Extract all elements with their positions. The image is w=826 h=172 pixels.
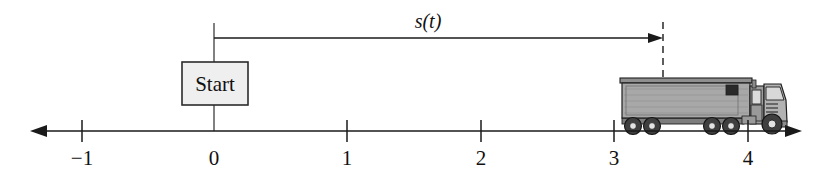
tick-label-2: 2 bbox=[476, 146, 487, 170]
start-box: Start bbox=[182, 62, 248, 105]
axis-right-arrowhead-icon bbox=[785, 125, 802, 137]
tick-label-0: 0 bbox=[209, 146, 220, 170]
trailer-marker-box bbox=[726, 85, 738, 95]
axis-left-arrowhead-icon bbox=[30, 125, 47, 137]
number-line-truck-diagram: s(t) Start bbox=[0, 0, 826, 172]
number-line-axis: −1 0 1 2 3 4 bbox=[30, 120, 802, 170]
tick-label-4: 4 bbox=[743, 146, 754, 170]
cab-side-window bbox=[752, 90, 761, 104]
cab-fuel-tank bbox=[742, 116, 756, 124]
tick-label-neg1: −1 bbox=[71, 146, 93, 170]
displacement-arrow-group: s(t) bbox=[214, 10, 663, 43]
start-box-label: Start bbox=[195, 72, 235, 96]
tick-label-1: 1 bbox=[342, 146, 353, 170]
semi-truck bbox=[620, 78, 787, 135]
displacement-label: s(t) bbox=[415, 10, 442, 33]
displacement-arrowhead-icon bbox=[648, 33, 663, 43]
tick-label-3: 3 bbox=[609, 146, 620, 170]
exhaust-stack-icon bbox=[752, 80, 756, 88]
trailer-roof-rail bbox=[620, 78, 752, 83]
